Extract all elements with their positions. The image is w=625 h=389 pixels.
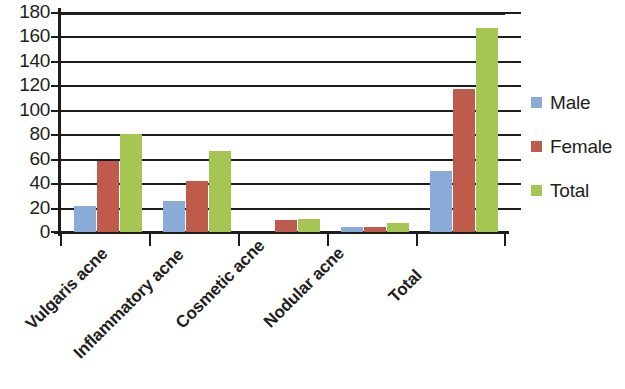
legend-swatch-female-icon [531,141,542,152]
bar-group-total [416,12,505,232]
bar-group-cosmetic-acne [238,12,327,232]
x-axis-tick [149,232,151,246]
y-axis-tick [51,159,60,161]
y-axis-tick-right [505,110,521,112]
bar-group-inflammatory-acne [149,12,238,232]
bar-female [364,227,386,232]
legend-label-male: Male [550,93,590,112]
y-axis-tick [51,12,60,14]
x-axis-tick [504,232,506,246]
bar-female [186,181,208,232]
y-axis-tick-label: 140 [0,51,50,70]
y-axis-tick [51,183,60,185]
x-axis-tick [238,232,240,246]
y-axis-tick [51,85,60,87]
y-axis-tick [51,110,60,112]
bar-group-nodular-acne [327,12,416,232]
bar-female [453,89,475,232]
legend-swatch-total-icon [531,185,542,196]
y-axis-tick-label: 20 [0,198,50,217]
y-axis-tick-label: 60 [0,149,50,168]
y-axis-tick-right [505,12,521,14]
legend-swatch-male-icon [531,97,542,108]
y-axis-tick-right [505,61,521,63]
y-axis-tick-right [505,159,521,161]
y-axis-tick-labels: 180 160 140 120 100 80 60 40 20 0 [0,0,50,240]
chart-legend: Male Female Total [531,80,625,212]
x-axis-label-cosmetic-acne: Cosmetic acne [172,236,269,333]
y-axis-tick [51,36,60,38]
y-axis-tick [51,208,60,210]
x-axis-label-total: Total [385,266,426,307]
plot-area [60,12,505,232]
y-axis-tick-label: 40 [0,173,50,192]
bar-total [120,134,142,232]
x-axis-tick [60,232,62,246]
bar-total [387,223,409,232]
legend-label-total: Total [550,181,589,200]
y-axis-tick-right [505,208,521,210]
x-axis-category-labels: Vulgaris acne Inflammatory acne Cosmetic… [0,248,625,389]
bar-male [341,227,363,232]
y-axis-tick-right [505,36,521,38]
y-axis-tick-label: 80 [0,124,50,143]
y-axis-tick-label: 180 [0,2,50,21]
legend-item-female: Female [531,124,625,168]
bar-groups [60,12,505,232]
y-axis-tick [51,134,60,136]
bar-male [74,206,96,232]
legend-item-male: Male [531,80,625,124]
x-axis-tick [327,232,329,246]
legend-label-female: Female [550,137,612,156]
bar-group-vulgaris-acne [60,12,149,232]
bar-chart: 180 160 140 120 100 80 60 40 20 0 [0,0,625,389]
y-axis-tick-right [505,85,521,87]
legend-item-total: Total [531,168,625,212]
bar-total [476,28,498,232]
x-axis-label-nodular-acne: Nodular acne [260,244,349,333]
bar-total [298,219,320,232]
x-axis-tick [416,232,418,246]
bar-total [209,151,231,232]
bar-female [97,161,119,232]
y-axis-tick-label: 0 [0,222,50,241]
bar-female [275,220,297,232]
bar-male [163,201,185,232]
y-axis-tick-label: 120 [0,75,50,94]
y-axis-tick-label: 100 [0,100,50,119]
y-axis-tick-right [505,134,521,136]
y-axis-tick [51,231,60,233]
y-axis-tick [51,61,60,63]
bar-male [430,171,452,232]
y-axis-tick-label: 160 [0,26,50,45]
y-axis-tick-right [505,183,521,185]
